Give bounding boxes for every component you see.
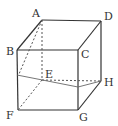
label-G: G: [79, 111, 88, 124]
section-lines: [17, 75, 101, 87]
label-B: B: [6, 45, 14, 58]
edge-BF: [17, 50, 18, 110]
label-F: F: [6, 109, 14, 122]
edge-CD: [78, 21, 101, 50]
cube-diagram: A B C D E F G H: [0, 0, 118, 126]
label-D: D: [104, 10, 113, 23]
label-E: E: [45, 68, 53, 81]
line-A-P: [19, 20, 42, 74]
label-H: H: [104, 76, 114, 89]
label-C: C: [81, 48, 89, 61]
edge-AB: [17, 20, 42, 50]
edge-GH: [78, 81, 101, 110]
edge-AD: [42, 20, 101, 21]
edge-EF: [18, 80, 42, 110]
solid-edges: [17, 20, 101, 110]
label-A: A: [31, 7, 41, 20]
